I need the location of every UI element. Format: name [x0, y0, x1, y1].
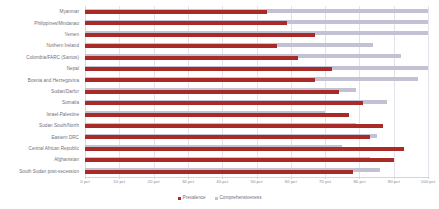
x-tick-label: 70 pct	[319, 179, 331, 185]
bar-group	[85, 74, 428, 85]
bar-prevalence	[85, 33, 315, 37]
bar-prevalence	[85, 170, 353, 174]
x-tick-label: 20 pct	[148, 179, 160, 185]
plot-area	[85, 6, 428, 177]
bar-group	[85, 143, 428, 154]
bar-group	[85, 131, 428, 142]
x-tick-label: 50 pct	[251, 179, 263, 185]
bar-group	[85, 86, 428, 97]
bar-group	[85, 63, 428, 74]
category-label: Yemen	[65, 32, 79, 37]
category-axis-labels: MyanmarPhilippines/MindanaoYemenNothern …	[0, 6, 82, 177]
legend-swatch-icon	[178, 197, 181, 200]
bar-group	[85, 17, 428, 28]
x-tick-label: 100 pct	[421, 179, 435, 185]
bar-group	[85, 97, 428, 108]
bar-prevalence	[85, 158, 394, 162]
category-label: Sudan/Darfur	[51, 89, 79, 94]
category-label: Bosnia and Herzegovina	[28, 78, 79, 83]
x-tick-label: 60 pct	[285, 179, 297, 185]
category-label: Nothern Ireland	[47, 43, 79, 48]
category-label: Somalia	[62, 100, 79, 105]
bar-prevalence	[85, 56, 298, 60]
legend-swatch-icon	[215, 197, 218, 200]
bar-prevalence	[85, 67, 332, 71]
legend-label: Prevalence	[183, 195, 206, 201]
category-label: Eastern DRC	[51, 135, 79, 140]
x-tick-label: 10 pct	[113, 179, 125, 185]
bar-prevalence	[85, 124, 383, 128]
x-axis-tick-labels: 0 pct10 pct20 pct30 pct40 pct50 pct60 pc…	[85, 179, 428, 189]
category-label: South Sudan post-secession	[19, 169, 79, 174]
bar-group	[85, 109, 428, 120]
gridline	[428, 6, 429, 177]
bar-prevalence	[85, 44, 277, 48]
bar-prevalence	[85, 10, 267, 14]
category-label: Sudan South/North	[39, 123, 79, 128]
x-tick-label: 30 pct	[182, 179, 194, 185]
bar-group	[85, 120, 428, 131]
bar-prevalence	[85, 147, 404, 151]
category-label: Afghanistan	[54, 157, 79, 162]
chart-legend: PrevalenceComprehensiveness	[0, 195, 439, 201]
category-label: Israel-Palestine	[47, 112, 79, 117]
x-tick-label: 80 pct	[353, 179, 365, 185]
x-tick-label: 40 pct	[216, 179, 228, 185]
bar-prevalence	[85, 135, 370, 139]
legend-item[interactable]: Comprehensiveness	[215, 195, 262, 201]
bar-group	[85, 40, 428, 51]
bar-prevalence	[85, 101, 363, 105]
category-label: Nepal	[67, 66, 79, 71]
x-tick-label: 0 pct	[80, 179, 90, 185]
category-label: Colombia/FARC (Santos)	[26, 55, 79, 60]
category-label: Myanmar	[60, 9, 80, 14]
bar-prevalence	[85, 78, 315, 82]
bar-prevalence	[85, 21, 287, 25]
bar-group	[85, 52, 428, 63]
bar-prevalence	[85, 113, 349, 117]
category-label: Philippines/Mindanao	[34, 21, 79, 26]
bar-group	[85, 154, 428, 165]
category-label: Central African Republic	[29, 146, 79, 151]
bar-group	[85, 29, 428, 40]
bar-prevalence	[85, 90, 339, 94]
x-tick-label: 90 pct	[388, 179, 400, 185]
bar-group	[85, 6, 428, 17]
horizontal-bar-chart: MyanmarPhilippines/MindanaoYemenNothern …	[0, 0, 439, 209]
bar-group	[85, 166, 428, 177]
legend-item[interactable]: Prevalence	[178, 195, 206, 201]
legend-label: Comprehensiveness	[220, 195, 262, 201]
